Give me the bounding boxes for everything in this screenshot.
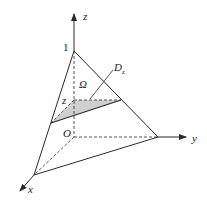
region-omega-label: Ω <box>79 78 87 90</box>
z-axis-label: z <box>82 10 88 22</box>
edge-x-y <box>34 137 158 175</box>
apex-value-label: 1 <box>63 41 69 53</box>
height-z-label: z <box>61 94 67 106</box>
cross-section-label: Dz <box>113 61 125 76</box>
origin-label: O <box>63 127 71 139</box>
x-axis-label: x <box>27 183 33 195</box>
tetrahedron-diagram: z 1 Ω Dz z O y x <box>0 0 207 201</box>
diagram-svg: z 1 Ω Dz z O y x <box>0 0 207 201</box>
dz-leader-line <box>90 70 113 99</box>
y-axis-label: y <box>191 132 197 144</box>
